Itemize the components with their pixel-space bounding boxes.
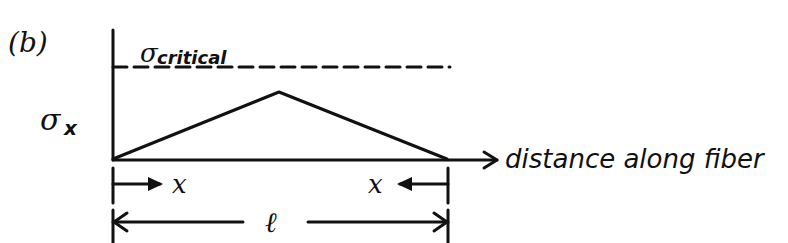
left-transfer-label: x bbox=[172, 169, 187, 199]
fiber-stress-diagram: (b) σ x σ critical distance along fiber … bbox=[0, 0, 788, 243]
y-axis-label: σ x bbox=[40, 102, 78, 140]
stress-profile bbox=[113, 92, 447, 159]
right-transfer-arrowhead bbox=[397, 177, 412, 191]
fiber-length-label: ℓ bbox=[265, 206, 277, 239]
critical-subscript: critical bbox=[157, 47, 227, 68]
critical-stress-label: σ critical bbox=[140, 38, 227, 68]
right-transfer-label: x bbox=[368, 169, 383, 199]
x-axis-label: distance along fiber bbox=[505, 144, 766, 174]
left-transfer-arrowhead bbox=[148, 177, 163, 191]
y-axis-symbol: σ bbox=[40, 102, 62, 137]
panel-label: (b) bbox=[8, 26, 48, 59]
y-axis-subscript: x bbox=[63, 116, 78, 140]
